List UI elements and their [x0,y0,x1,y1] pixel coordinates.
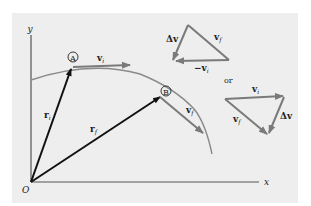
vi-label: vi [96,53,104,64]
origin-label: O [22,185,30,195]
y-axis-label: y [26,24,33,34]
point-b-label: B [163,88,169,97]
triangle2-vi-vector [225,96,283,99]
velocity-vector-vi [73,65,130,67]
point-b-marker: B [161,86,171,97]
triangle1-neg-vi-label: −vi [194,63,209,74]
triangle1-vf-label: vf [213,32,223,44]
point-a-marker: A [68,52,78,63]
or-label: or [224,76,233,85]
velocity-vector-vf [160,97,203,133]
kinematics-diagram: A B y x O ri rf vi vf Δv vf −vi or vi vf… [0,0,311,206]
position-vector-ri [31,69,71,182]
triangle2-vi-label: vi [251,84,259,95]
triangle2-vf-vector [225,99,267,134]
triangle2-vf-label: vf [232,114,242,126]
triangle1-dv-label: Δv [166,34,179,44]
point-a-label: A [69,54,76,63]
rf-label: rf [90,124,99,136]
vector-triangle-1: Δv vf −vi [166,25,229,74]
triangle2-dv-label: Δv [280,111,293,121]
ri-label: ri [44,110,51,121]
position-vector-rf [31,97,160,182]
triangle1-neg-vi-vector [176,60,229,61]
vector-triangle-2: vi vf Δv [225,84,293,134]
triangle1-vf-vector [188,25,229,60]
trajectory-curve [31,68,212,154]
vf-label: vf [185,105,195,117]
x-axis-label: x [264,177,269,187]
